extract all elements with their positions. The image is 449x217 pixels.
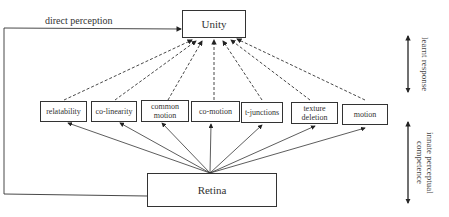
retina-label: Retina — [198, 186, 227, 195]
cue-relatability: relatability — [40, 101, 87, 122]
unity-node: Unity — [182, 10, 246, 38]
cue-label: motion — [354, 110, 377, 119]
cue-label: co-linearity — [96, 107, 133, 116]
cue-label: co-motion — [199, 107, 232, 116]
cue-label: texture deletion — [292, 104, 337, 122]
retina-node: Retina — [147, 173, 277, 207]
innate-competence-label: innate perceptual competence — [413, 125, 435, 200]
cue-label: common motion — [142, 102, 188, 120]
direct-perception-label: direct perception — [45, 15, 112, 26]
cue-co-motion: co-motion — [191, 101, 240, 122]
unity-label: Unity — [201, 20, 226, 29]
cue-co-linearity: co-linearity — [91, 101, 137, 122]
cue-common-motion: common motion — [141, 100, 189, 122]
cue-label: t-junctions — [245, 108, 279, 117]
cue-t-junctions: t-junctions — [241, 102, 283, 123]
learnt-response-label: learnt response — [420, 34, 430, 94]
cue-label: relatability — [46, 107, 81, 116]
cue-texture-deletion: texture deletion — [291, 102, 338, 124]
cue-motion: motion — [342, 104, 388, 125]
